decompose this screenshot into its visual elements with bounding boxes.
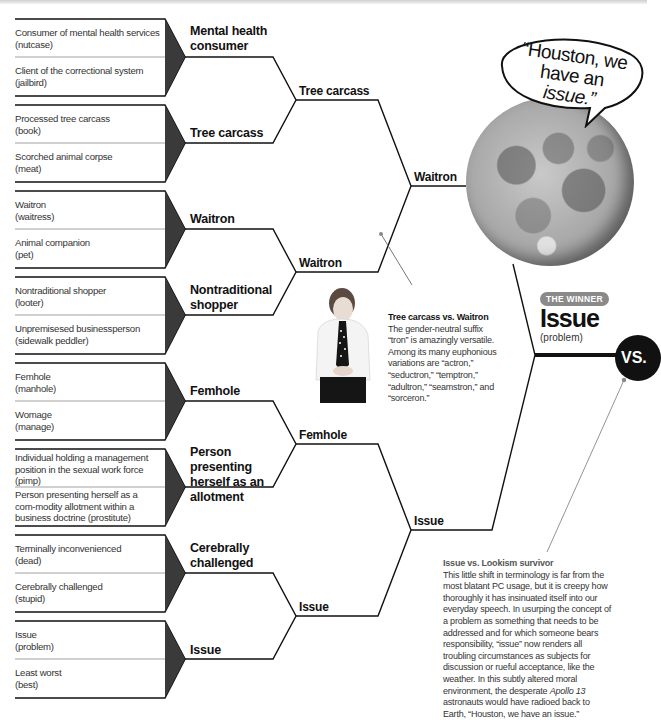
entry-consumer-of-mental-health-services: Consumer of mental health services(nutca… — [15, 27, 165, 50]
round2-winner-waitron: Waitron — [299, 256, 342, 270]
note-tree-carcass-vs-waitron: Tree carcass vs. Waitron The gender-neut… — [388, 312, 500, 405]
entry-person-presenting-herself-commodity: Person presenting herself as a com-modit… — [15, 489, 160, 524]
entry-waitron: Waitron(waitress) — [15, 199, 165, 222]
round3-winner-waitron: Waitron — [414, 170, 457, 184]
entry-unpremisesed-businessperson: Unpremisesed businessperson(sidewalk ped… — [15, 323, 165, 346]
entry-animal-companion: Animal companion(pet) — [15, 237, 165, 260]
round2-winner-tree-carcass: Tree carcass — [299, 84, 369, 98]
note-title: Tree carcass vs. Waitron — [388, 312, 500, 324]
entry-cerebrally-challenged: Cerebrally challenged(stupid) — [15, 581, 165, 604]
note-body: This little shift in terminology is far … — [443, 570, 611, 719]
entry-femhole: Femhole(manhole) — [15, 371, 165, 394]
entry-client-of-correctional-system: Client of the correctional system(jailbi… — [15, 65, 165, 88]
round1-winner-mental-health-consumer: Mental health consumer — [190, 24, 280, 54]
entry-terminally-inconvenienced: Terminally inconvenienced(dead) — [15, 543, 165, 566]
entry-management-position-sexual-work-force: Individual holding a management position… — [15, 452, 155, 487]
note-issue-vs-lookism-survivor: Issue vs. Lookism survivor This little s… — [443, 558, 613, 720]
note-body: The gender-neutral suffix “tron” is amaz… — [388, 324, 497, 404]
entry-scorched-animal-corpse: Scorched animal corpse(meat) — [15, 151, 165, 174]
round1-winner-nontraditional-shopper: Nontraditional shopper — [190, 283, 280, 313]
entry-issue: Issue(problem) — [15, 629, 165, 652]
entry-least-worst: Least worst(best) — [15, 667, 165, 690]
entry-processed-tree-carcass: Processed tree carcass(book) — [15, 113, 165, 136]
vs-circle: VS. — [615, 335, 661, 381]
round3-winner-issue: Issue — [414, 514, 444, 528]
round1-winner-femhole: Femhole — [190, 384, 240, 399]
entry-nontraditional-shopper: Nontraditional shopper(looter) — [15, 285, 165, 308]
winner-name: Issue — [540, 304, 599, 332]
round1-winner-tree-carcass: Tree carcass — [190, 126, 263, 141]
round1-winner-person-presenting-herself: Person presenting herself as an allotmen… — [190, 445, 280, 505]
woman-photo — [312, 285, 372, 403]
entry-womage: Womage(manage) — [15, 409, 165, 432]
round2-winner-issue: Issue — [299, 600, 329, 614]
round1-winner-waitron: Waitron — [190, 212, 235, 227]
winner-plain-term: (problem) — [540, 332, 583, 343]
note-title: Issue vs. Lookism survivor — [443, 558, 613, 570]
round2-winner-femhole: Femhole — [299, 428, 347, 442]
round1-winner-issue: Issue — [190, 643, 221, 658]
round1-winner-cerebrally-challenged: Cerebrally challenged — [190, 541, 280, 571]
